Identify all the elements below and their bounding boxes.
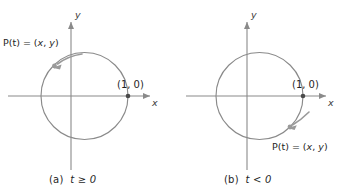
panel-b-caption-label: (b)	[224, 174, 239, 185]
panel-a-intercept-label: (1, 0)	[117, 80, 144, 90]
panel-a-caption-condition: t ≥ 0	[70, 174, 96, 185]
panel-a-intercept-dot	[126, 94, 131, 99]
panel-b-caption: (b) t < 0	[224, 175, 272, 185]
panel-a-point-label-prefix: P(t) = (	[3, 37, 38, 48]
panel-a-x-axis-label: x	[152, 98, 158, 108]
panel-b-x-axis-label: x	[328, 98, 334, 108]
panel-a-x-axis-arrowhead	[143, 93, 150, 99]
panel-a-caption-label: (a)	[49, 174, 64, 185]
panel-b-point-label-suffix: )	[324, 141, 328, 152]
panel-b-intercept-dot	[301, 94, 306, 99]
panel-b-intercept-label: (1, 0)	[292, 80, 319, 90]
panel-a-caption: (a) t ≥ 0	[49, 175, 96, 185]
panel-b-y-axis-label: y	[251, 10, 257, 20]
panel-a-point-label: P(t) = (x, y)	[3, 38, 59, 48]
panel-b-caption-condition: t < 0	[246, 174, 272, 185]
panel-b-point-label-prefix: P(t) = (	[272, 141, 307, 152]
panel-a-y-axis-arrowhead	[68, 22, 74, 29]
panel-a-y-axis-label: y	[75, 10, 81, 20]
figure-canvas	[0, 0, 348, 191]
figure-root: y x (1, 0) P(t) = (x, y) (a) t ≥ 0 y x (…	[0, 0, 348, 191]
panel-b-y-axis-arrowhead	[244, 22, 250, 29]
panel-b-x-axis-arrowhead	[319, 93, 326, 99]
panel-b-direction-arc	[293, 112, 310, 125]
panel-b-point-label: P(t) = (x, y)	[272, 142, 328, 152]
panel-a-point-label-suffix: )	[55, 37, 59, 48]
